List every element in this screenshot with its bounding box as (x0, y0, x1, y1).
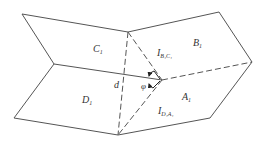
label-i-d1a1: ID₁A₁ (157, 105, 174, 117)
label-i-b1c1: IB₁C₁ (156, 47, 172, 59)
edge-top-left (22, 14, 128, 64)
label-a1: A1 (181, 91, 191, 103)
label-b1: B1 (193, 37, 202, 49)
fold-line-solid (54, 64, 162, 80)
dashed-line-d (118, 32, 128, 135)
edge-bottom-left (14, 64, 118, 135)
label-d1: D1 (81, 94, 92, 106)
arrow-up-icon (149, 71, 160, 79)
diagram-canvas: C1 B1 D1 A1 IB₁C₁ ID₁A₁ d φ (0, 0, 264, 144)
label-d: d (114, 79, 120, 90)
label-c1: C1 (93, 43, 103, 55)
edge-top-right (128, 12, 252, 62)
label-phi: φ (141, 81, 146, 91)
dashed-edges (118, 32, 252, 135)
dashed-line-right (162, 62, 252, 80)
dashed-line-ida (118, 80, 162, 135)
